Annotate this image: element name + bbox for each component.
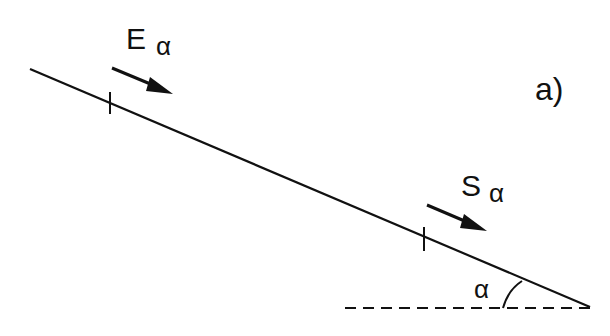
e-alpha-label: Eα	[126, 24, 171, 54]
s-symbol: S	[461, 169, 481, 202]
arrow-e-alpha	[112, 68, 173, 94]
e-symbol: E	[126, 22, 146, 55]
angle-arc	[503, 281, 522, 308]
arrow-s-alpha	[427, 205, 487, 231]
diagram-canvas	[0, 0, 610, 336]
e-subscript: α	[156, 31, 171, 61]
inclined-line	[30, 69, 590, 307]
angle-label: α	[474, 276, 489, 302]
panel-label: a)	[535, 73, 563, 105]
s-subscript: α	[489, 178, 504, 208]
s-alpha-label: Sα	[461, 171, 504, 201]
